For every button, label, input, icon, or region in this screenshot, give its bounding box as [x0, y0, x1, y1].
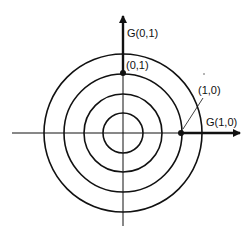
label-g10: G(1,0) — [206, 116, 237, 128]
concentric-circles-diagram: G(0,1) (0,1) (1,0) G(1,0) — [0, 0, 248, 237]
point-1-0 — [178, 130, 184, 136]
label-point-0-1: (0,1) — [126, 59, 149, 71]
speck — [203, 73, 204, 74]
label-g01: G(0,1) — [127, 27, 158, 39]
label-point-1-0: (1,0) — [198, 84, 221, 96]
